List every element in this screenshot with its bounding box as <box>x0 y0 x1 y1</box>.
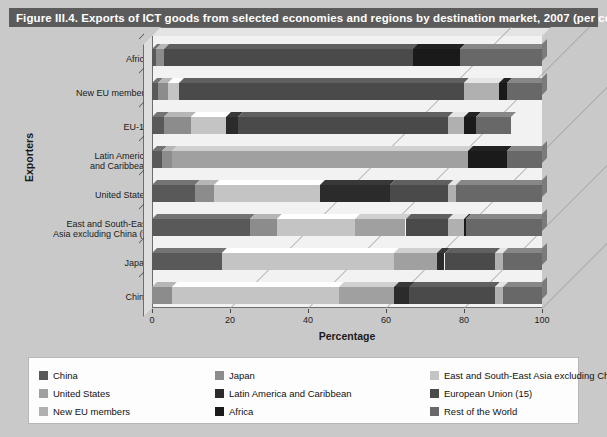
bar-segment <box>179 83 464 100</box>
figure-title: Figure III.4. Exports of ICT goods from … <box>16 12 607 24</box>
bar-segment-top <box>222 248 399 253</box>
bar-segment-top <box>164 44 419 49</box>
legend-item[interactable]: China <box>39 370 215 381</box>
bar-segment <box>448 185 456 202</box>
bar-segment-top <box>406 214 454 219</box>
legend-swatch <box>430 389 439 398</box>
bar-segment-cap <box>542 39 547 61</box>
bar-segment <box>168 83 180 100</box>
bar-segment <box>464 83 499 100</box>
bar-segment <box>152 219 250 236</box>
bar-row <box>152 287 542 304</box>
bar-segment <box>238 117 449 134</box>
legend-item[interactable]: East and South-East Asia excluding China… <box>430 370 607 381</box>
bar-segment-top <box>503 248 547 253</box>
bar-segment-top <box>152 214 255 219</box>
bar-segment <box>437 253 445 270</box>
legend-swatch <box>39 389 48 398</box>
bar-segment <box>507 151 542 168</box>
legend-item[interactable]: Africa <box>215 406 430 417</box>
bar-segment <box>195 185 215 202</box>
x-tick <box>308 309 309 313</box>
legend-swatch <box>39 407 48 416</box>
bar-segment <box>152 185 195 202</box>
bar-segment-top <box>339 282 399 287</box>
gridline <box>542 27 607 308</box>
legend-label: Africa <box>229 406 253 417</box>
bar-segment <box>390 185 449 202</box>
legend-label: Latin America and Caribbean <box>229 388 352 399</box>
panel-side-face <box>143 36 152 317</box>
bar-segment-top <box>466 214 547 219</box>
legend-swatch <box>430 371 439 380</box>
bar-segment-top <box>172 282 345 287</box>
bar-segment <box>152 151 162 168</box>
legend-swatch <box>430 407 439 416</box>
bar-segment-cap <box>542 141 547 163</box>
bar-row <box>152 219 542 236</box>
bar-segment <box>158 83 168 100</box>
bar-segment-top <box>409 282 500 287</box>
bar-segment <box>152 117 164 134</box>
legend-item[interactable]: European Union (15) <box>430 388 607 399</box>
bar-segment <box>222 253 394 270</box>
bar-segment-top <box>464 78 504 83</box>
y-axis-label: Latin Americaand Caribbean <box>90 151 149 172</box>
bar-segment-top <box>507 146 547 151</box>
bar-segment-top <box>503 282 547 287</box>
bar-segment <box>164 49 414 66</box>
y-axis-label: New EU members <box>76 88 149 99</box>
bar-segment <box>507 83 542 100</box>
bar-row <box>152 185 542 202</box>
legend-item[interactable]: United States <box>39 388 215 399</box>
bar-segment-top <box>355 214 411 219</box>
bar-segment <box>152 287 172 304</box>
bar-segment <box>503 253 542 270</box>
legend-label: Japan <box>229 370 255 381</box>
bar-segment <box>499 83 507 100</box>
bar-segment-top <box>413 44 465 49</box>
bar-row <box>152 49 542 66</box>
panel-top-face <box>152 27 551 36</box>
legend-item[interactable]: Japan <box>215 370 430 381</box>
bar-segment-top <box>390 180 454 185</box>
bar-row <box>152 151 542 168</box>
x-tick <box>230 309 231 313</box>
x-tick <box>464 309 465 313</box>
bar-segment-cap <box>542 175 547 197</box>
y-axis-label: East and South-EastAsia excluding China … <box>53 219 149 240</box>
bar-segment-top <box>468 146 512 151</box>
x-tick-label: 0 <box>149 315 154 325</box>
bar-segment-top <box>214 180 324 185</box>
bar-segment <box>172 287 340 304</box>
bar-segment <box>413 49 460 66</box>
bar-segment-top <box>179 78 469 83</box>
legend-label: Rest of the World <box>444 406 517 417</box>
legend-swatch <box>215 407 224 416</box>
bar-segment <box>445 253 496 270</box>
legend-item[interactable]: Rest of the World <box>430 406 607 417</box>
bar-segment <box>152 253 222 270</box>
bar-segment <box>503 287 542 304</box>
legend-item[interactable]: New EU members <box>39 406 215 417</box>
bar-segment <box>468 151 507 168</box>
x-tick-label: 20 <box>225 315 235 325</box>
bar-row <box>152 117 542 134</box>
bar-segment <box>448 219 464 236</box>
bar-segment <box>460 49 542 66</box>
bar-segment <box>394 287 410 304</box>
bar-segment <box>464 117 476 134</box>
bar-segment-top <box>394 248 442 253</box>
bar-segment-top <box>320 180 395 185</box>
x-axis-title: Percentage <box>152 330 542 342</box>
bar-segment-top <box>191 112 231 117</box>
legend-item[interactable]: Latin America and Caribbean <box>215 388 430 399</box>
legend-label: New EU members <box>53 406 130 417</box>
bar-segment <box>406 219 449 236</box>
bar-segment-top <box>507 78 547 83</box>
bar-segment <box>250 219 277 236</box>
bar-segment <box>339 287 394 304</box>
bar-segment-cap <box>542 243 547 265</box>
bar-segment-top <box>456 180 547 185</box>
legend-swatch <box>215 389 224 398</box>
